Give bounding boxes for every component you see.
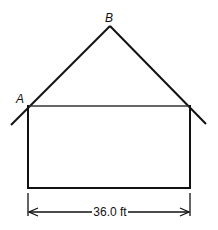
point-label-b: B	[105, 11, 113, 25]
roof-left-line	[11, 26, 110, 125]
point-label-a: A	[15, 92, 24, 106]
dimension-label: 36.0 ft	[93, 205, 127, 219]
roof-right-line	[110, 26, 206, 124]
house-diagram: B A 36.0 ft	[0, 0, 218, 230]
